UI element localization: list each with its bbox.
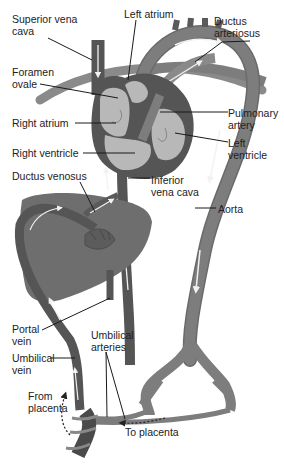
umbilical-cord [66,412,98,455]
label-foramen-ovale: Foramen ovale [12,66,54,90]
label-ductus-venosus: Ductus venosus [12,170,87,182]
label-left-ventricle: Left ventricle [228,137,267,161]
heart [91,74,193,180]
label-umbilical-arteries: Umbilical arteries [91,329,134,353]
label-to-placenta: To placenta [125,426,179,438]
label-portal-vein: Portal vein [12,323,39,347]
umbilical-arteries-vessel [90,410,230,422]
label-from-placenta: From placenta [28,390,68,414]
label-ductus-arteriosus: Ductus arteriosus [214,15,260,39]
label-right-atrium: Right atrium [12,117,69,129]
label-superior-vena-cava: Superior vena cava [12,13,77,37]
label-pulmonary-artery: Pulmonary artery [228,107,278,131]
label-aorta: Aorta [218,203,243,215]
label-left-atrium: Left atrium [124,8,174,20]
label-umbilical-vein: Umbilical vein [12,352,55,376]
label-right-ventricle: Right ventricle [12,147,79,159]
label-inferior-vena-cava: Inferior vena cava [151,174,199,198]
